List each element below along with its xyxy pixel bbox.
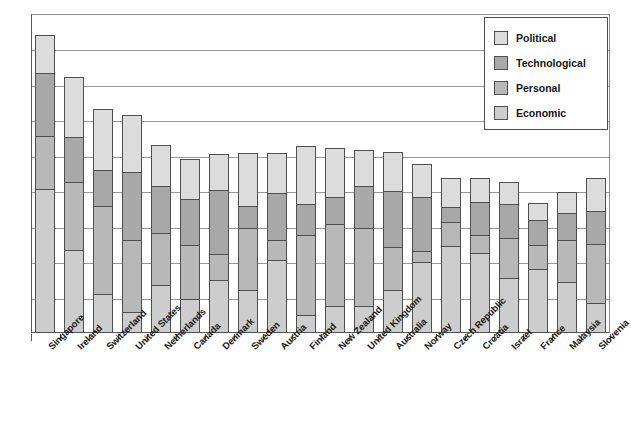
x-axis-label: Slovenia xyxy=(596,317,631,352)
x-axis-label: Ireland xyxy=(75,322,104,351)
legend-label-economic: Economic xyxy=(516,107,566,119)
x-axis-label: Israel xyxy=(509,327,534,352)
legend-item-political[interactable]: Political xyxy=(494,25,607,50)
legend-swatch-economic xyxy=(494,106,508,120)
legend-label-technological: Technological xyxy=(516,57,586,69)
legend-item-economic[interactable]: Economic xyxy=(494,100,607,125)
x-axis-label: Finland xyxy=(307,321,338,352)
legend-swatch-personal xyxy=(494,81,508,95)
legend-label-political: Political xyxy=(516,32,556,44)
legend-swatch-technological xyxy=(494,56,508,70)
x-axis-label: Malaysia xyxy=(567,317,602,352)
x-axis-label: Croatia xyxy=(480,321,510,351)
legend-label-personal: Personal xyxy=(516,82,560,94)
x-axis-label: France xyxy=(538,322,567,351)
legend: Political Technological Personal Economi… xyxy=(484,17,608,130)
legend-item-technological[interactable]: Technological xyxy=(494,50,607,75)
legend-item-personal[interactable]: Personal xyxy=(494,75,607,100)
x-axis-label: Austria xyxy=(278,321,308,351)
legend-swatch-political xyxy=(494,31,508,45)
